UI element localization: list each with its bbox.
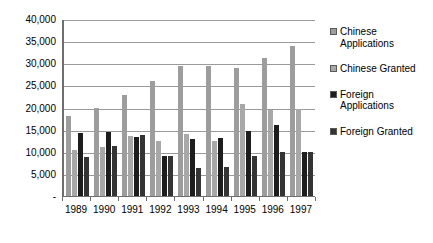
bar	[274, 125, 279, 196]
legend-item[interactable]: Chinese Applications	[330, 26, 430, 49]
legend-label: Foreign Applications	[340, 89, 424, 112]
bar	[100, 147, 105, 196]
bar	[302, 152, 307, 196]
bar	[290, 46, 295, 196]
bar	[212, 141, 217, 196]
bar	[112, 146, 117, 196]
bar	[268, 110, 273, 196]
legend-item[interactable]: Chinese Granted	[330, 63, 430, 75]
x-tick	[146, 197, 147, 201]
y-tick-label: 5,000	[0, 170, 56, 180]
bar	[156, 141, 161, 196]
x-tick-label: 1995	[231, 203, 259, 219]
y-tick-label: 15,000	[0, 126, 56, 136]
x-tick-label: 1991	[118, 203, 146, 219]
bar	[66, 116, 71, 196]
bar-group	[203, 20, 231, 196]
bar	[234, 68, 239, 196]
bar	[134, 137, 139, 196]
chart-legend: Chinese ApplicationsChinese GrantedForei…	[330, 26, 430, 151]
bar	[280, 152, 285, 196]
bar	[246, 131, 251, 196]
bar	[296, 109, 301, 196]
bar-group	[176, 20, 204, 196]
y-tick-label: 40,000	[0, 15, 56, 25]
chinese-applications-swatch	[330, 28, 337, 35]
bar	[196, 168, 201, 196]
x-tick	[231, 197, 232, 201]
bar	[308, 152, 313, 196]
y-tick-label: 30,000	[0, 59, 56, 69]
bar	[184, 134, 189, 196]
foreign-applications-swatch	[330, 91, 337, 98]
foreign-granted-swatch	[330, 128, 337, 135]
x-axis: 198919901991199219931994199519961997	[62, 203, 315, 219]
x-tick	[118, 197, 119, 201]
bar-group	[92, 20, 120, 196]
x-tick	[287, 197, 288, 201]
legend-item[interactable]: Foreign Granted	[330, 126, 430, 138]
bar-group	[64, 20, 92, 196]
bar	[162, 156, 167, 196]
legend-label: Chinese Granted	[340, 63, 416, 75]
bar	[122, 95, 127, 196]
bar	[224, 167, 229, 196]
y-axis: 40,00035,00030,00025,00020,00015,00010,0…	[0, 14, 56, 198]
plot-area	[62, 20, 315, 197]
bar	[94, 108, 99, 197]
y-tick-label: -	[0, 192, 56, 202]
bar-group	[120, 20, 148, 196]
bar	[240, 104, 245, 196]
legend-label: Foreign Granted	[340, 126, 413, 138]
x-tick-label: 1994	[203, 203, 231, 219]
bar-group	[148, 20, 176, 196]
bar-groups	[64, 20, 315, 196]
x-tick	[203, 197, 204, 201]
bar	[150, 81, 155, 196]
bar	[190, 139, 195, 196]
x-tick-label: 1990	[90, 203, 118, 219]
legend-label: Chinese Applications	[340, 26, 424, 49]
x-tick	[174, 197, 175, 201]
x-tick-label: 1996	[259, 203, 287, 219]
bar	[206, 66, 211, 196]
bar-group	[259, 20, 287, 196]
bar	[78, 133, 83, 196]
y-tick-label: 20,000	[0, 104, 56, 114]
bar	[168, 156, 173, 196]
x-tick	[62, 197, 63, 201]
bar-group	[287, 20, 315, 196]
x-tick	[315, 197, 316, 201]
x-tick-label: 1992	[146, 203, 174, 219]
bar	[140, 135, 145, 196]
x-tick-label: 1989	[62, 203, 90, 219]
x-tick-label: 1997	[287, 203, 315, 219]
x-axis-ticks	[62, 197, 315, 201]
y-tick-label: 35,000	[0, 37, 56, 47]
y-tick-label: 25,000	[0, 81, 56, 91]
x-tick	[90, 197, 91, 201]
chinese-granted-swatch	[330, 65, 337, 72]
bar	[252, 156, 257, 196]
bar	[106, 132, 111, 196]
x-tick-label: 1993	[174, 203, 202, 219]
y-tick-label: 10,000	[0, 148, 56, 158]
x-tick	[259, 197, 260, 201]
bar	[262, 58, 267, 197]
legend-item[interactable]: Foreign Applications	[330, 89, 430, 112]
bar	[128, 136, 133, 196]
bar-group	[231, 20, 259, 196]
bar	[178, 66, 183, 196]
bar-chart: 40,00035,00030,00025,00020,00015,00010,0…	[0, 0, 433, 243]
bar	[84, 157, 89, 196]
bar	[72, 150, 77, 196]
bar	[218, 138, 223, 196]
